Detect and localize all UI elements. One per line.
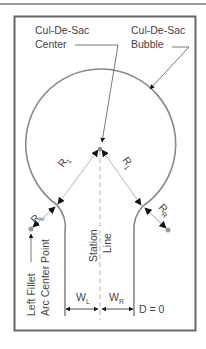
right-fillet-center-point — [166, 228, 171, 233]
r1-right-label: R 1 — [119, 154, 137, 171]
wl-label: W L — [76, 291, 90, 305]
svg-text:W: W — [109, 291, 119, 303]
svg-text:Arc Center Point: Arc Center Point — [39, 239, 51, 316]
r1-left-label: R 1 — [55, 153, 73, 170]
svg-text:W: W — [76, 291, 86, 303]
cul-de-sac-diagram: Cul-De-Sac Center Cul-De-Sac Bubble R 1 … — [0, 0, 206, 349]
svg-text:Left Fillet: Left Fillet — [25, 273, 37, 316]
left-fillet-label: Left Fillet Arc Center Point — [25, 239, 51, 316]
rl-label: R L — [28, 209, 46, 227]
svg-text:Line: Line — [101, 233, 113, 253]
bubble-label-line2: Bubble — [131, 38, 164, 50]
r1-left-line — [58, 150, 98, 204]
r1-right-line — [102, 150, 141, 205]
rr-label: R R — [155, 201, 173, 219]
wr-label: W R — [109, 291, 124, 305]
svg-text:Station: Station — [87, 229, 99, 262]
bubble-label-line1: Cul-De-Sac — [131, 24, 185, 36]
bubble-leader-line — [150, 47, 189, 89]
svg-text:L: L — [86, 298, 90, 305]
left-fillet-center-point — [29, 227, 34, 232]
center-label-line2: Center — [35, 38, 67, 50]
svg-text:R: R — [119, 298, 124, 305]
center-leader-line — [75, 45, 118, 142]
d-equals-zero-label: D = 0 — [139, 303, 165, 315]
center-label-line1: Cul-De-Sac — [35, 24, 89, 36]
cul-de-sac-center-point — [98, 147, 102, 151]
